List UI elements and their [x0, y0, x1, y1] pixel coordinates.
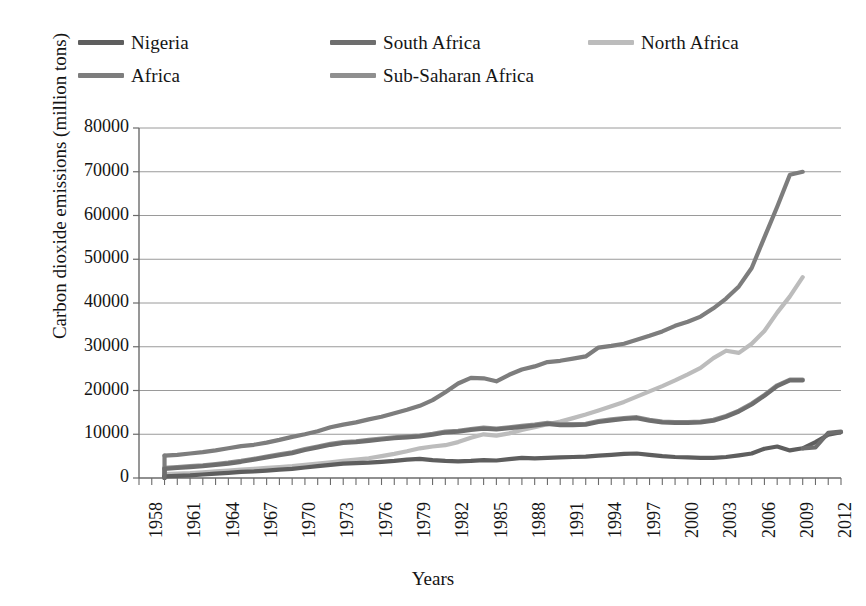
x-tick-label: 1991 — [567, 502, 588, 538]
x-tick-label: 2000 — [682, 502, 703, 538]
x-tick-label: 1982 — [452, 502, 473, 538]
x-tick-label: 1997 — [644, 502, 665, 538]
y-tick-label: 0 — [37, 466, 129, 487]
x-tick-label: 1961 — [184, 502, 205, 538]
co2-emissions-line-chart: Nigeria South Africa North Africa Africa… — [0, 0, 866, 606]
x-tick-label: 2009 — [797, 502, 818, 538]
x-tick-label: 1964 — [223, 502, 244, 538]
y-tick-label: 10000 — [37, 422, 129, 443]
y-tick-label: 50000 — [37, 247, 129, 268]
x-tick-label: 1994 — [605, 502, 626, 538]
y-tick-label: 70000 — [37, 160, 129, 181]
y-tick-label: 60000 — [37, 204, 129, 225]
x-tick-label: 2006 — [759, 502, 780, 538]
x-tick-label: 1958 — [146, 502, 167, 538]
x-tick-label: 1973 — [337, 502, 358, 538]
y-tick-label: 30000 — [37, 335, 129, 356]
x-axis-title: Years — [0, 568, 866, 590]
x-tick-label: 1988 — [529, 502, 550, 538]
y-tick-label: 20000 — [37, 379, 129, 400]
y-tick-label: 80000 — [37, 116, 129, 137]
x-tick-label: 2003 — [720, 502, 741, 538]
x-tick-label: 1970 — [299, 502, 320, 538]
y-tick-label: 40000 — [37, 291, 129, 312]
x-tick-label: 1967 — [261, 502, 282, 538]
plot-area: 8000070000600005000040000300002000010000… — [0, 0, 866, 606]
x-tick-label: 2012 — [835, 502, 856, 538]
x-tick-label: 1985 — [491, 502, 512, 538]
x-tick-label: 1979 — [414, 502, 435, 538]
x-tick-label: 1976 — [376, 502, 397, 538]
